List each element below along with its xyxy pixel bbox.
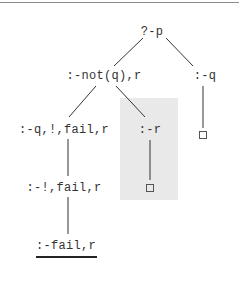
node-fail-r: :-fail,r bbox=[36, 239, 96, 253]
empty-clause-box-icon bbox=[199, 131, 207, 139]
node-q-cut-fail-r: :-q,!,fail,r bbox=[19, 123, 109, 137]
node-not-q-r: :-not(q),r bbox=[66, 69, 141, 83]
node-root-query: ?-p bbox=[141, 25, 164, 39]
edge-not-qcut bbox=[69, 86, 96, 117]
edge-root-not bbox=[114, 38, 143, 66]
node-r: :-r bbox=[139, 123, 162, 137]
node-q: :-q bbox=[194, 69, 217, 83]
empty-clause-box-icon bbox=[146, 184, 154, 192]
edge-not-r bbox=[116, 86, 145, 117]
node-cut-fail-r: :-!,fail,r bbox=[26, 181, 101, 195]
failure-underline bbox=[36, 256, 97, 258]
edge-root-q bbox=[166, 38, 193, 66]
